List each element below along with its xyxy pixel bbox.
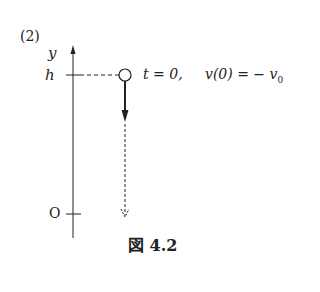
problem-label: (2) xyxy=(20,28,40,44)
caption-prefix: 図 xyxy=(128,236,144,255)
h-label: h xyxy=(45,66,55,84)
figure-caption: 図 4.2 xyxy=(128,232,177,256)
velocity-text: v(0) = − v xyxy=(205,66,277,82)
velocity-subscript: 0 xyxy=(277,75,283,85)
time-label: t = 0, xyxy=(143,66,183,82)
caption-number: 4.2 xyxy=(150,236,178,255)
velocity-label: v(0) = − v0 xyxy=(205,66,283,85)
y-axis-label: y xyxy=(48,44,56,62)
ball xyxy=(119,69,131,81)
y-axis-arrowhead xyxy=(71,45,76,54)
velocity-arrowhead xyxy=(122,110,129,122)
origin-label: O xyxy=(49,205,60,221)
